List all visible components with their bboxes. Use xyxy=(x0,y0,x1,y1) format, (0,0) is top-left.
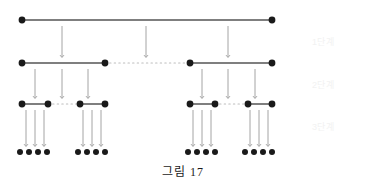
leaf-group-4-dot-2 xyxy=(251,149,257,155)
hierarchy-diagram xyxy=(0,0,366,186)
leaf-group-3-dot-4 xyxy=(212,149,218,155)
figure-caption: 그림 17 xyxy=(0,162,366,180)
leaves-layer xyxy=(17,149,275,155)
level-2-node-3 xyxy=(187,60,194,67)
leaf-group-4-dot-3 xyxy=(260,149,266,155)
level-3-node-7 xyxy=(245,101,252,108)
segments-layer xyxy=(22,20,272,104)
leaf-group-2-dot-4 xyxy=(102,149,108,155)
level-2-node-1 xyxy=(19,60,26,67)
level-3-node-6 xyxy=(212,101,219,108)
nodes-layer xyxy=(19,17,276,108)
leaf-group-3-dot-1 xyxy=(185,149,191,155)
leaf-group-1-dot-4 xyxy=(44,149,50,155)
level-3-node-2 xyxy=(45,101,52,108)
level-1-node-1 xyxy=(19,17,26,24)
leaf-group-3-dot-3 xyxy=(203,149,209,155)
level-2-node-4 xyxy=(269,60,276,67)
arrows-layer xyxy=(26,26,268,146)
leaf-group-2-dot-2 xyxy=(84,149,90,155)
leaf-group-1-dot-2 xyxy=(26,149,32,155)
level-1-node-2 xyxy=(269,17,276,24)
leaf-group-4-dot-4 xyxy=(269,149,275,155)
leaf-group-2-dot-1 xyxy=(75,149,81,155)
leaf-group-3-dot-2 xyxy=(194,149,200,155)
leaf-group-2-dot-3 xyxy=(93,149,99,155)
level-2-node-2 xyxy=(102,60,109,67)
stage-3-label: 3단계 xyxy=(312,120,334,133)
level-3-node-1 xyxy=(19,101,26,108)
leaf-group-4-dot-1 xyxy=(242,149,248,155)
level-3-node-3 xyxy=(77,101,84,108)
leaf-group-1-dot-3 xyxy=(35,149,41,155)
level-3-node-5 xyxy=(187,101,194,108)
leaf-group-1-dot-1 xyxy=(17,149,23,155)
level-3-node-8 xyxy=(269,101,276,108)
level-3-node-4 xyxy=(102,101,109,108)
stage-1-label: 1단계 xyxy=(312,35,334,48)
figure-container: 1단계2단계3단계 그림 17 xyxy=(0,0,366,186)
stage-2-label: 2단계 xyxy=(312,78,334,91)
